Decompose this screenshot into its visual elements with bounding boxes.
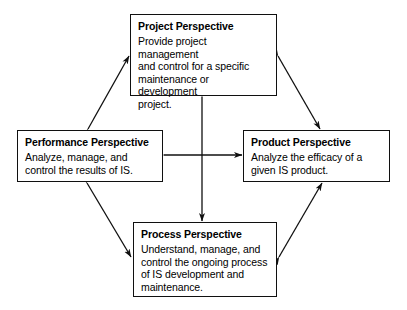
node-process-body: Understand, manage, and control the ongo…: [141, 243, 269, 293]
node-project-perspective: Project Perspective Provide project mana…: [130, 14, 277, 96]
perspectives-diagram: Project Perspective Provide project mana…: [0, 0, 407, 310]
node-project-title: Project Perspective: [138, 20, 269, 33]
node-product-title: Product Perspective: [251, 136, 382, 149]
connector-project-product: [278, 56, 320, 129]
connector-performance-process: [87, 183, 131, 257]
node-performance-perspective: Performance Perspective Analyze, manage,…: [17, 130, 163, 182]
connector-process-product: [279, 183, 322, 257]
node-process-perspective: Process Perspective Understand, manage, …: [133, 222, 277, 297]
connector-performance-project: [88, 56, 129, 129]
node-performance-title: Performance Perspective: [25, 136, 155, 149]
node-project-body: Provide project management and control f…: [138, 35, 269, 111]
node-process-title: Process Perspective: [141, 228, 269, 241]
node-product-body: Analyze the efficacy of a given IS produ…: [251, 151, 382, 176]
node-product-perspective: Product Perspective Analyze the efficacy…: [243, 130, 390, 182]
node-performance-body: Analyze, manage, and control the results…: [25, 151, 155, 176]
